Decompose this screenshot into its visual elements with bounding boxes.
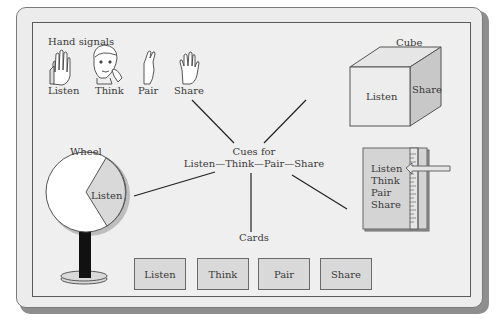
cube-side-label: Share [412, 84, 442, 96]
cube-front-label: Listen [366, 91, 397, 103]
thinking-face-icon [94, 45, 122, 84]
hand-signal-label-share: Share [174, 85, 204, 97]
raised-hand-icon [50, 50, 70, 85]
wheel-title: Wheel [70, 146, 102, 158]
ruler-item-listen: Listen [371, 163, 402, 175]
center-title-line1: Cues for [174, 146, 334, 158]
crossed-fingers-icon [144, 51, 155, 84]
cube-title: Cube [396, 37, 422, 49]
hand-signal-label-think: Think [95, 85, 124, 97]
ruler-item-share: Share [371, 199, 401, 211]
card-share: Share [320, 258, 372, 290]
open-hand-icon [180, 52, 199, 84]
center-title-line2: Listen—Think—Pair—Share [174, 158, 334, 170]
hand-signals-title: Hand signals [48, 36, 114, 48]
card-think: Think [197, 258, 249, 290]
hand-signal-label-listen: Listen [48, 85, 79, 97]
cards-title: Cards [239, 232, 269, 244]
ruler-item-think: Think [371, 175, 400, 187]
ruler-item-pair: Pair [371, 187, 391, 199]
wheel-segment-label: Listen [91, 190, 122, 202]
hand-signal-label-pair: Pair [138, 85, 158, 97]
card-listen: Listen [134, 258, 186, 290]
wheel-icon [46, 152, 130, 284]
card-pair: Pair [258, 258, 310, 290]
